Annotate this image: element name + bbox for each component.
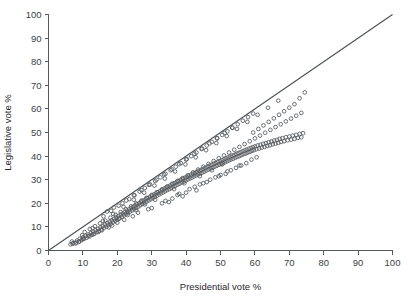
y-tick-label: 30 (31, 174, 42, 185)
y-tick-label: 100 (26, 9, 42, 20)
y-axis-title: Legislative vote % (2, 94, 13, 171)
x-tick-label: 90 (353, 257, 364, 268)
y-tick-label: 70 (31, 80, 42, 91)
y-tick-label: 20 (31, 198, 42, 209)
x-tick-label: 0 (46, 257, 51, 268)
x-tick-label: 80 (318, 257, 329, 268)
scatter-chart: 0102030405060708090100010203040506070809… (0, 0, 408, 299)
x-tick-label: 60 (250, 257, 261, 268)
y-tick-label: 0 (36, 245, 41, 256)
x-tick-label: 100 (385, 257, 401, 268)
x-tick-label: 70 (284, 257, 295, 268)
x-tick-label: 50 (215, 257, 226, 268)
x-tick-label: 20 (112, 257, 123, 268)
y-tick-label: 90 (31, 33, 42, 44)
y-tick-label: 10 (31, 221, 42, 232)
y-tick-label: 60 (31, 103, 42, 114)
x-tick-label: 40 (181, 257, 192, 268)
x-axis-title: Presidential vote % (180, 281, 262, 292)
x-tick-label: 10 (78, 257, 89, 268)
y-tick-label: 80 (31, 56, 42, 67)
y-tick-label: 50 (31, 127, 42, 138)
x-tick-label: 30 (146, 257, 157, 268)
plot-svg: 0102030405060708090100010203040506070809… (0, 0, 408, 299)
y-tick-label: 40 (31, 151, 42, 162)
